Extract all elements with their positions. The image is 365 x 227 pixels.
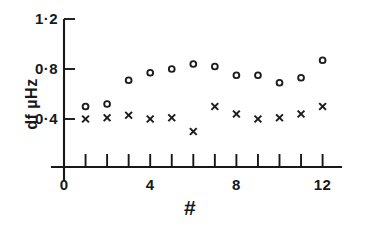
data-point-cross	[233, 111, 240, 118]
data-point-cross	[190, 128, 197, 135]
y-tick-marks	[64, 19, 75, 119]
data-point-circle	[255, 72, 261, 78]
data-point-circle	[320, 57, 326, 63]
data-point-cross	[147, 116, 154, 123]
data-point-circle	[298, 75, 304, 81]
x-tick-label: 0	[60, 176, 69, 193]
x-tick-label: 12	[314, 176, 332, 193]
data-point-circle	[212, 64, 218, 70]
data-point-circle	[126, 77, 132, 83]
scatter-plot-figure: 0·40·81·2 04812 df µHz #	[0, 0, 365, 227]
data-point-circle	[277, 80, 283, 86]
data-point-circle	[190, 61, 196, 67]
data-point-circle	[169, 66, 175, 72]
y-tick-label: 1·2	[35, 10, 58, 27]
data-point-circle	[147, 70, 153, 76]
data-point-cross	[211, 103, 218, 110]
x-tick-label: 4	[146, 176, 155, 193]
x-tick-label: 8	[232, 176, 241, 193]
data-point-circle	[104, 101, 110, 107]
plot-canvas: 0·40·81·2 04812 df µHz #	[0, 0, 365, 227]
data-point-cross	[104, 114, 111, 121]
series-circles	[83, 57, 326, 109]
x-tick-labels: 04812	[60, 176, 332, 193]
series-crosses	[82, 103, 326, 135]
x-tick-marks	[86, 154, 323, 167]
y-axis-title: df µHz	[23, 78, 40, 129]
data-point-circle	[83, 104, 89, 110]
data-point-cross	[125, 112, 132, 119]
data-point-cross	[298, 111, 305, 118]
x-axis-title: #	[184, 196, 196, 219]
data-point-cross	[82, 116, 89, 123]
data-point-cross	[319, 103, 326, 110]
y-tick-label: 0·8	[35, 60, 58, 77]
data-point-circle	[234, 72, 240, 78]
data-point-cross	[168, 114, 175, 121]
data-point-cross	[276, 114, 283, 121]
data-point-cross	[255, 116, 262, 123]
